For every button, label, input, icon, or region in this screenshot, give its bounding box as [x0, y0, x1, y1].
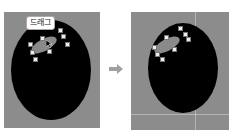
selection-handle[interactable] — [47, 49, 52, 54]
selection-handle[interactable] — [186, 37, 191, 42]
selection-handle[interactable] — [65, 42, 70, 47]
selection-handle[interactable] — [164, 35, 169, 40]
drag-tooltip: 드래그 — [26, 16, 55, 30]
selection-handle[interactable] — [160, 57, 165, 62]
selection-handle[interactable] — [178, 26, 183, 31]
selection-handle[interactable] — [33, 57, 38, 62]
arrow-right-icon — [109, 64, 123, 74]
selection-handle[interactable] — [40, 36, 45, 41]
canvas-after — [131, 12, 229, 130]
cursor-icon — [46, 40, 52, 48]
selection-handle[interactable] — [172, 47, 177, 52]
selection-handle[interactable] — [152, 45, 157, 50]
selection-handle[interactable] — [58, 28, 63, 33]
selection-handle[interactable] — [28, 42, 33, 47]
selection-handle[interactable] — [30, 50, 35, 55]
selection-handle[interactable] — [61, 34, 66, 39]
